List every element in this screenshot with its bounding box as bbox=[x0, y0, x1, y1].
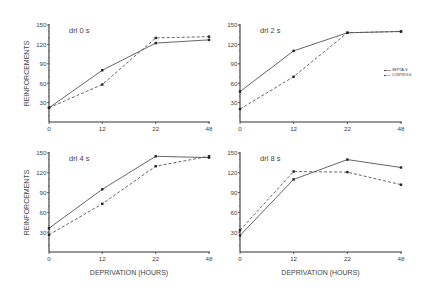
panel-title: drl 0 s bbox=[69, 26, 90, 35]
y-tick-label: 120 bbox=[227, 169, 238, 176]
data-point bbox=[346, 171, 348, 173]
data-point bbox=[48, 107, 50, 109]
y-tick-label: 120 bbox=[36, 41, 47, 48]
x-axis-label: DEPRIVATION (HOURS) bbox=[90, 269, 168, 277]
data-point bbox=[208, 39, 210, 41]
y-tick-label: 90 bbox=[40, 189, 47, 196]
data-point bbox=[292, 76, 294, 78]
data-point bbox=[292, 170, 294, 172]
panel-drl-4-s: 3060901201500122248drl 4 sREINFORCEMENTS… bbox=[23, 149, 213, 277]
data-point bbox=[208, 155, 210, 157]
data-point bbox=[292, 50, 294, 52]
x-tick-label: 48 bbox=[206, 255, 213, 262]
data-point bbox=[400, 166, 402, 168]
data-point bbox=[346, 32, 348, 34]
panel-title: drl 4 s bbox=[69, 154, 90, 163]
y-tick-label: 60 bbox=[40, 209, 47, 216]
x-tick-label: 12 bbox=[99, 125, 106, 132]
x-axis-label: DEPRIVATION (HOURS) bbox=[281, 269, 359, 277]
data-point bbox=[239, 90, 241, 92]
legend-label-controls: CONTROLS bbox=[392, 73, 411, 78]
data-point bbox=[400, 30, 402, 32]
x-tick-label: 0 bbox=[47, 255, 51, 262]
y-tick-label: 60 bbox=[40, 80, 47, 87]
x-tick-label: 12 bbox=[99, 255, 106, 262]
y-tick-label: 30 bbox=[231, 229, 238, 236]
x-tick-label: 48 bbox=[398, 125, 405, 132]
data-point bbox=[400, 183, 402, 185]
data-point bbox=[155, 37, 157, 39]
x-tick-label: 22 bbox=[152, 255, 159, 262]
panel-drl-8-s: 3060901201500122248drl 8 sDEPRIVATION (H… bbox=[227, 149, 405, 277]
series-septals bbox=[240, 31, 401, 91]
y-tick-label: 60 bbox=[231, 80, 238, 87]
data-point bbox=[48, 227, 50, 229]
x-tick-label: 12 bbox=[290, 125, 297, 132]
y-tick-label: 90 bbox=[231, 60, 238, 67]
data-point bbox=[101, 83, 103, 85]
x-tick-label: 0 bbox=[238, 255, 242, 262]
solid-line-icon bbox=[384, 69, 391, 72]
data-point bbox=[239, 229, 241, 231]
y-tick-label: 150 bbox=[36, 21, 47, 28]
x-tick-label: 12 bbox=[290, 255, 297, 262]
y-tick-label: 120 bbox=[36, 169, 47, 176]
y-tick-label: 30 bbox=[40, 229, 47, 236]
y-tick-label: 30 bbox=[231, 99, 238, 106]
series-septals bbox=[49, 156, 209, 228]
data-point bbox=[101, 203, 103, 205]
series-controls bbox=[240, 31, 401, 109]
series-controls bbox=[49, 37, 209, 108]
data-point bbox=[346, 158, 348, 160]
data-point bbox=[292, 178, 294, 180]
legend: SEPTALS CONTROLS bbox=[384, 68, 411, 78]
x-tick-label: 0 bbox=[238, 125, 242, 132]
data-point bbox=[101, 69, 103, 71]
y-tick-label: 90 bbox=[231, 189, 238, 196]
data-point bbox=[101, 188, 103, 190]
y-tick-label: 150 bbox=[36, 149, 47, 156]
series-septals bbox=[240, 160, 401, 236]
y-axis-label: REINFORCEMENTS bbox=[23, 40, 30, 106]
x-tick-label: 0 bbox=[47, 125, 51, 132]
y-tick-label: 120 bbox=[227, 41, 238, 48]
series-controls bbox=[49, 156, 209, 235]
x-tick-label: 22 bbox=[344, 125, 351, 132]
dashed-line-icon bbox=[384, 74, 391, 77]
panel-drl-0-s: 3060901201500122248drl 0 sREINFORCEMENTS bbox=[23, 21, 213, 132]
data-point bbox=[239, 234, 241, 236]
y-tick-label: 60 bbox=[231, 209, 238, 216]
y-axis-label: REINFORCEMENTS bbox=[23, 169, 30, 235]
data-point bbox=[155, 165, 157, 167]
panel-drl-2-s: 3060901201500122248drl 2 s bbox=[227, 21, 405, 132]
data-point bbox=[155, 155, 157, 157]
y-tick-label: 30 bbox=[40, 99, 47, 106]
panel-title: drl 8 s bbox=[260, 154, 281, 163]
y-tick-label: 150 bbox=[227, 149, 238, 156]
legend-item-controls: CONTROLS bbox=[384, 73, 411, 78]
panel-title: drl 2 s bbox=[260, 26, 281, 35]
x-tick-label: 22 bbox=[152, 125, 159, 132]
figure: 3060901201500122248drl 0 sREINFORCEMENTS… bbox=[0, 0, 427, 293]
x-tick-label: 48 bbox=[206, 125, 213, 132]
x-tick-label: 22 bbox=[344, 255, 351, 262]
data-point bbox=[239, 108, 241, 110]
data-point bbox=[208, 35, 210, 37]
y-tick-label: 90 bbox=[40, 60, 47, 67]
x-tick-label: 48 bbox=[398, 255, 405, 262]
data-point bbox=[155, 42, 157, 44]
y-tick-label: 150 bbox=[227, 21, 238, 28]
series-controls bbox=[240, 171, 401, 230]
data-point bbox=[48, 234, 50, 236]
